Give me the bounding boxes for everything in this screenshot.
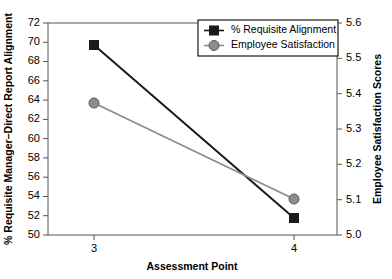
series-line (94, 45, 294, 218)
y-tick-label: 62 (28, 112, 40, 124)
data-point-marker (290, 214, 299, 223)
x-tick-label: 3 (91, 242, 97, 254)
y-tick-label: 70 (28, 35, 40, 47)
y-tick-label: 54 (28, 189, 40, 201)
data-point-marker (90, 41, 99, 50)
y-tick-label: 56 (28, 170, 40, 182)
y-axis-left-labels: 72 70 68 66 64 62 60 58 56 54 52 50 (28, 16, 40, 240)
x-axis-ticks (94, 235, 294, 240)
y-axis-right-title: Employee Satisfaction Scores (371, 54, 383, 204)
x-axis-labels: 3 4 (91, 242, 297, 254)
y2-tick-label: 5.1 (346, 193, 361, 205)
legend-label: Employee Satisfaction (231, 38, 335, 50)
y2-tick-label: 5.2 (346, 157, 361, 169)
y-tick-label: 72 (28, 16, 40, 28)
x-tick-label: 4 (291, 242, 297, 254)
y2-tick-label: 5.4 (346, 87, 361, 99)
y2-tick-label: 5.0 (346, 228, 361, 240)
y2-tick-label: 5.6 (346, 16, 361, 28)
y-tick-label: 60 (28, 132, 40, 144)
series-requisite-alignment (90, 41, 299, 223)
y-axis-left-ticks (43, 23, 48, 235)
series-line (94, 103, 294, 199)
circle-marker-icon (209, 41, 219, 51)
chart-legend: % Requisite Alignment Employee Satisfact… (198, 20, 338, 56)
square-marker-icon (210, 26, 219, 35)
data-point-marker (289, 194, 299, 204)
y-tick-label: 52 (28, 209, 40, 221)
legend-label: % Requisite Alignment (231, 23, 336, 35)
y-tick-label: 50 (28, 228, 40, 240)
y2-tick-label: 5.5 (346, 51, 361, 63)
y-tick-label: 64 (28, 93, 40, 105)
series-employee-satisfaction (89, 98, 299, 204)
x-axis-title: Assessment Point (146, 260, 238, 272)
y-tick-label: 66 (28, 74, 40, 86)
line-chart: 72 70 68 66 64 62 60 58 56 54 52 50 5.6 … (0, 0, 392, 279)
y-axis-left-title: % Requisite Manager–Direct Report Alignm… (2, 13, 14, 245)
y-tick-label: 68 (28, 54, 40, 66)
y-tick-label: 58 (28, 151, 40, 163)
data-point-marker (89, 98, 99, 108)
y-axis-right-labels: 5.6 5.5 5.4 5.3 5.2 5.1 5.0 (346, 16, 361, 240)
y2-tick-label: 5.3 (346, 122, 361, 134)
chart-container: 72 70 68 66 64 62 60 58 56 54 52 50 5.6 … (0, 0, 392, 279)
